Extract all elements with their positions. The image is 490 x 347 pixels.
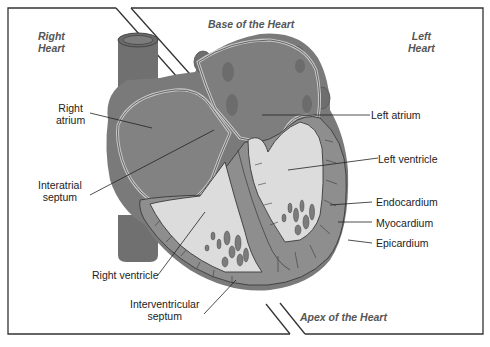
heart-diagram: Right Heart Base of the Heart Left Heart… <box>0 0 490 347</box>
vein-opening <box>295 59 305 73</box>
label-right-atrium-line2: atrium <box>56 114 85 126</box>
label-right-atrium-line1: Right <box>56 102 85 114</box>
region-left-heart: Left Heart <box>408 30 435 54</box>
region-left-heart-line1: Left <box>408 30 435 42</box>
region-apex: Apex of the Heart <box>300 311 387 323</box>
region-base: Base of the Heart <box>208 18 294 30</box>
label-interventricular-septum-line1: Interventricular <box>130 298 199 310</box>
region-right-heart-line2: Heart <box>38 42 65 54</box>
label-left-atrium: Left atrium <box>371 109 421 121</box>
region-right-heart: Right Heart <box>38 30 65 54</box>
label-right-atrium: Right atrium <box>56 102 85 126</box>
label-interatrial-septum-line1: Interatrial <box>38 179 82 191</box>
label-epicardium: Epicardium <box>376 237 429 249</box>
label-endocardium: Endocardium <box>376 196 438 208</box>
label-right-ventricle: Right ventricle <box>92 269 159 281</box>
vein-opening <box>222 62 234 82</box>
region-left-heart-line2: Heart <box>408 42 435 54</box>
label-left-ventricle: Left ventricle <box>378 153 438 165</box>
region-right-heart-line1: Right <box>38 30 65 42</box>
label-interatrial-septum-line2: septum <box>38 191 82 203</box>
label-interatrial-septum: Interatrial septum <box>38 179 82 203</box>
vein-opening <box>226 94 238 116</box>
label-myocardium: Myocardium <box>376 217 433 229</box>
vein-opening <box>302 95 312 113</box>
label-interventricular-septum-line2: septum <box>130 310 199 322</box>
label-interventricular-septum: Interventricular septum <box>130 298 199 322</box>
